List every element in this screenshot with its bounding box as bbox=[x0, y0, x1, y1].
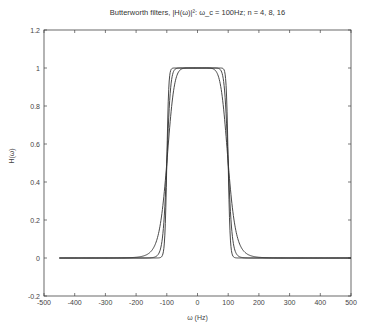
y-tick-label: 1 bbox=[36, 65, 40, 72]
y-axis-label: H(ω) bbox=[8, 144, 20, 168]
series-line-16 bbox=[59, 68, 351, 258]
x-tick-label: 0 bbox=[196, 299, 200, 306]
series-line-4 bbox=[59, 68, 351, 258]
y-tick-label: 0.4 bbox=[30, 179, 40, 186]
chart-figure: Butterworth filters, |H(ω)|²: ω_c = 100H… bbox=[0, 0, 371, 330]
x-tick-label: 500 bbox=[345, 299, 357, 306]
x-tick-label: 400 bbox=[314, 299, 326, 306]
y-tick-label: -0.2 bbox=[28, 293, 40, 300]
x-tick-label: -100 bbox=[160, 299, 174, 306]
x-tick-label: -200 bbox=[129, 299, 143, 306]
x-axis-label: ω (Hz) bbox=[44, 314, 351, 321]
axes-frame bbox=[44, 30, 351, 296]
y-tick-label: 0 bbox=[36, 255, 40, 262]
x-tick-label: -300 bbox=[98, 299, 112, 306]
plot-area: -500-400-300-200-1000100200300400500-0.2… bbox=[0, 0, 371, 330]
x-tick-label: -500 bbox=[37, 299, 51, 306]
series-line-8 bbox=[59, 68, 351, 258]
x-tick-label: -400 bbox=[68, 299, 82, 306]
y-tick-label: 1.2 bbox=[30, 27, 40, 34]
y-tick-label: 0.8 bbox=[30, 103, 40, 110]
x-tick-label: 200 bbox=[253, 299, 265, 306]
x-tick-label: 300 bbox=[284, 299, 296, 306]
y-tick-label: 0.2 bbox=[30, 217, 40, 224]
x-tick-label: 100 bbox=[222, 299, 234, 306]
y-tick-label: 0.6 bbox=[30, 141, 40, 148]
